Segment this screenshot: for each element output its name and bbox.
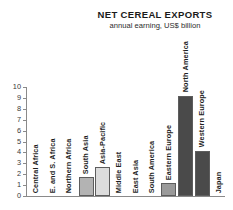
y-tick-label: 6 — [17, 127, 21, 134]
bar — [195, 151, 210, 196]
chart-figure: NET CEREAL EXPORTS annual earning, US$ b… — [0, 0, 233, 210]
bar — [95, 167, 110, 196]
y-tick-label: 7 — [17, 116, 21, 123]
y-tick-mark — [23, 87, 26, 88]
y-tick-label: 3 — [17, 160, 21, 167]
y-axis-line — [26, 87, 27, 196]
x-axis-category-label: Eastern Europe — [165, 125, 172, 180]
y-tick-mark — [23, 142, 26, 143]
y-tick-label: 0 — [17, 192, 21, 199]
bar — [161, 183, 176, 196]
x-axis-category-label: Central Africa — [33, 144, 40, 193]
y-tick-label: 2 — [17, 170, 21, 177]
y-tick-mark — [23, 131, 26, 132]
y-tick-label: 10 — [13, 83, 21, 90]
page-title: NET CEREAL EXPORTS — [85, 9, 225, 20]
y-tick-mark — [23, 185, 26, 186]
x-axis-category-label: East Asia — [132, 160, 139, 193]
y-tick-label: 1 — [17, 181, 21, 188]
y-tick-mark — [23, 152, 26, 153]
y-tick-mark — [23, 120, 26, 121]
x-axis-category-label: South Asia — [82, 135, 89, 174]
chart-subtitle: annual earning, US$ billion — [85, 21, 225, 31]
x-axis-category-label: Japan — [215, 171, 222, 193]
x-axis-category-label: Asia-Pacific — [99, 122, 106, 165]
bar — [79, 177, 94, 196]
y-tick-label: 5 — [17, 138, 21, 145]
y-tick-label: 8 — [17, 105, 21, 112]
x-axis-category-label: North America — [182, 41, 189, 92]
chart-title-block: NET CEREAL EXPORTS annual earning, US$ b… — [85, 9, 225, 31]
bar — [178, 96, 193, 196]
y-tick-mark — [23, 98, 26, 99]
x-axis-category-label: Middle East — [116, 151, 123, 193]
x-axis-category-label: Northern Africa — [66, 138, 73, 193]
y-tick-mark — [23, 196, 26, 197]
x-axis-baseline — [26, 196, 225, 197]
y-tick-label: 4 — [17, 149, 21, 156]
y-tick-mark — [23, 109, 26, 110]
x-axis-category-label: Western Europe — [198, 91, 205, 148]
y-tick-mark — [23, 174, 26, 175]
y-tick-label: 9 — [17, 94, 21, 101]
x-axis-category-label: South America — [149, 140, 156, 193]
x-axis-category-label: E. and S. Africa — [49, 138, 56, 193]
plot-area: 012345678910 Central AfricaE. and S. Afr… — [26, 87, 225, 196]
y-tick-mark — [23, 163, 26, 164]
